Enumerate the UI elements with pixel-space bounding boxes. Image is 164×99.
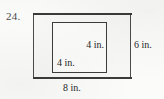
problem-number: 24. (6, 10, 20, 22)
figure-page: 24. 4 in. 4 in. 6 in. 8 in. (0, 0, 164, 99)
outer-rectangle-width-label: 8 in. (63, 82, 81, 93)
inner-square-width-label: 4 in. (57, 57, 75, 68)
outer-rectangle-height-label: 6 in. (134, 39, 152, 50)
inner-square-height-label: 4 in. (86, 39, 104, 50)
